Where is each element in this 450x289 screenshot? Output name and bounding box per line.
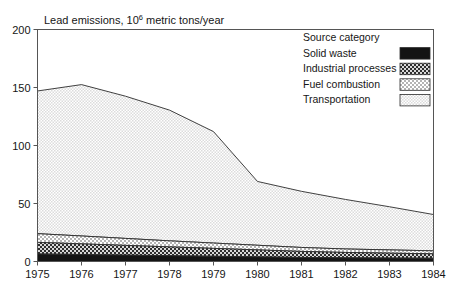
y-tick-label: 200 xyxy=(12,24,30,36)
x-tick-label: 1983 xyxy=(377,268,401,280)
x-tick-label: 1982 xyxy=(333,268,357,280)
x-tick-label: 1975 xyxy=(25,268,49,280)
chart-title-main: Lead emissions, 10 xyxy=(44,14,139,26)
legend-swatch-solid-waste xyxy=(400,48,430,60)
legend-swatch-fuel-combustion xyxy=(400,79,430,91)
y-tick-label: 100 xyxy=(12,140,30,152)
x-tick-label: 1984 xyxy=(421,268,445,280)
x-tick-label: 1978 xyxy=(157,268,181,280)
chart-svg: Lead emissions, 106 metric tons/year 050… xyxy=(0,0,450,289)
x-tick-label: 1976 xyxy=(69,268,93,280)
y-tick-label: 150 xyxy=(12,82,30,94)
y-tick-label: 0 xyxy=(24,256,30,268)
legend-swatch-industrial-processes xyxy=(400,63,430,74)
legend-label-fuel-combustion: Fuel combustion xyxy=(303,78,380,90)
chart-title: Lead emissions, 106 metric tons/year xyxy=(44,13,225,26)
legend-label-industrial-processes: Industrial processes xyxy=(303,62,396,74)
x-tick-label: 1981 xyxy=(289,268,313,280)
x-tick-label: 1980 xyxy=(245,268,269,280)
legend-label-solid-waste: Solid waste xyxy=(303,47,357,59)
legend-label-transportation: Transportation xyxy=(303,93,370,105)
x-tick-label: 1979 xyxy=(201,268,225,280)
chart-title-tail: metric tons/year xyxy=(143,14,225,26)
legend-title: Source category xyxy=(303,31,380,43)
y-tick-label: 50 xyxy=(18,198,30,210)
x-tick-label: 1977 xyxy=(113,268,137,280)
legend-swatch-transportation xyxy=(400,94,430,106)
lead-emissions-chart: Lead emissions, 106 metric tons/year 050… xyxy=(0,0,450,289)
